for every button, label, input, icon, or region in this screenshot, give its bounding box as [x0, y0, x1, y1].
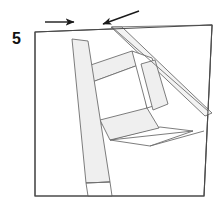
origami-step-diagram: 5 [0, 0, 224, 203]
shape-left-strip-foot [86, 182, 112, 196]
arrow-left-top-right [103, 11, 139, 24]
fold-illustration [0, 0, 224, 203]
